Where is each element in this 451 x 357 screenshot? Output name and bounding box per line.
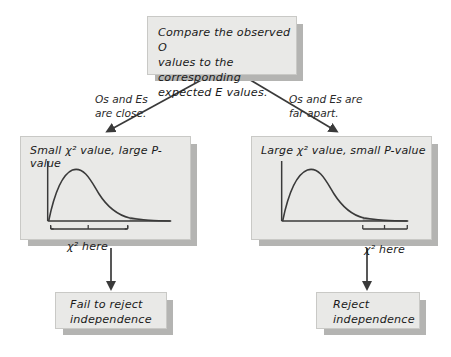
edge-label-os-es-close: Os and Es are close. (95, 92, 148, 120)
fail-to-reject-box: Fail to reject independence (55, 292, 167, 329)
reject-text: Reject independence (333, 297, 419, 327)
edge-label-os-es-far-apart: Os and Es are far apart. (289, 92, 362, 120)
chi-square-here-label-left: χ² here (67, 240, 108, 253)
fail-to-reject-text: Fail to reject independence (70, 297, 166, 327)
chi-square-curve-small (21, 155, 190, 239)
small-chi-square-box: Small χ² value, large P-value χ² here (20, 136, 191, 240)
reject-box: Reject independence (316, 292, 420, 329)
compare-observed-expected-box: Compare the observed O values to the cor… (147, 16, 297, 75)
chi-square-curve-large (252, 155, 431, 239)
compare-observed-expected-text: Compare the observed O values to the cor… (158, 25, 296, 100)
chi-square-here-label-right: χ² here (364, 243, 405, 256)
chi-square-decision-flowchart: Compare the observed O values to the cor… (0, 0, 451, 357)
large-chi-square-box: Large χ² value, small P-value χ² here (251, 136, 432, 240)
